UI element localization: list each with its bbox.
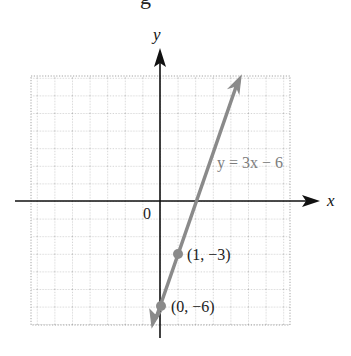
point-label-2: (0, −6) [171,298,215,316]
data-point-1 [173,249,183,259]
equation-label: y = 3x − 6 [217,154,283,172]
data-point-2 [156,301,166,311]
x-axis-label: x [326,191,335,210]
cropped-heading-fragment: g [140,0,151,9]
y-axis-label: y [151,25,161,44]
point-label-1: (1, −3) [187,246,231,264]
graph-figure: g x y 0 y = 3x − 6 (1, −3) (0, −6) [0,0,351,356]
origin-label: 0 [143,205,151,222]
